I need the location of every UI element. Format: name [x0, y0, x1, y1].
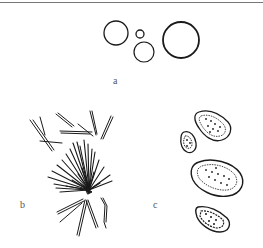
panel-label-b: b: [20, 200, 25, 210]
circle-small: [136, 30, 144, 38]
body-small: [181, 132, 196, 153]
panel-a-circles: [104, 21, 199, 62]
body-bottom: [196, 207, 230, 232]
body-large: [191, 160, 242, 196]
panel-label-c: c: [153, 200, 157, 210]
panel-b-needles: [30, 111, 113, 236]
panel-label-a: a: [113, 76, 117, 86]
figure-drawing: [0, 0, 263, 248]
circle-medium: [104, 21, 128, 45]
circle-large: [163, 22, 199, 58]
body-top: [195, 111, 231, 141]
circle-lower: [134, 42, 154, 62]
panel-c-bodies: [181, 111, 243, 232]
